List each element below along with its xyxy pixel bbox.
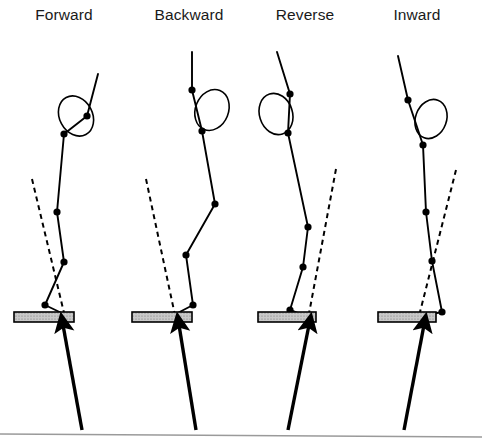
force-arrow-inward xyxy=(404,325,424,430)
joint-shoulder-inward xyxy=(419,141,426,148)
body-segments-inward xyxy=(398,56,442,318)
joint-hand-reverse xyxy=(286,90,293,97)
joint-hand-inward xyxy=(404,96,411,103)
panel-title-backward: Backward xyxy=(155,6,224,23)
head-ellipse-inward xyxy=(410,95,453,143)
panel-forward: Forward xyxy=(14,6,100,430)
panel-reverse: Reverse xyxy=(254,6,336,430)
body-segments-forward xyxy=(45,74,98,318)
panel-title-inward: Inward xyxy=(393,6,440,23)
landing-posture-diagram: ForwardBackwardReverseInward xyxy=(0,0,482,444)
joint-hip-backward xyxy=(211,200,218,207)
force-plate-reverse xyxy=(258,312,316,322)
joint-knee-inward xyxy=(428,257,435,264)
joint-hand-backward xyxy=(188,86,195,93)
joint-shoulder-reverse xyxy=(284,129,291,136)
joint-ankle-inward xyxy=(438,308,445,315)
joint-hip-forward xyxy=(53,208,60,215)
head-ellipse-forward xyxy=(52,90,101,143)
joint-shoulder-backward xyxy=(198,127,205,134)
joint-hand-forward xyxy=(83,112,90,119)
force-arrow-backward xyxy=(179,325,196,430)
joint-knee-forward xyxy=(60,258,67,265)
bottom-baseline xyxy=(0,434,482,437)
force-plate-backward xyxy=(132,312,192,322)
dashed-reference-line-backward xyxy=(146,179,176,320)
diagram-canvas: ForwardBackwardReverseInward xyxy=(0,0,482,444)
panel-title-reverse: Reverse xyxy=(276,6,334,23)
dashed-reference-line-inward xyxy=(418,170,456,320)
head-ellipse-backward xyxy=(189,84,235,135)
panel-backward: Backward xyxy=(132,6,235,430)
joint-ankle-forward xyxy=(41,301,48,308)
joint-knee-reverse xyxy=(299,263,306,270)
joint-shoulder-forward xyxy=(60,130,67,137)
force-arrow-forward xyxy=(63,325,82,430)
joint-hip-inward xyxy=(422,208,429,215)
body-segments-reverse xyxy=(277,52,313,319)
force-plate-forward xyxy=(14,312,74,322)
panel-title-forward: Forward xyxy=(35,6,93,23)
joint-hip-reverse xyxy=(304,223,311,230)
joint-ankle-backward xyxy=(189,301,196,308)
dashed-reference-line-reverse xyxy=(308,169,336,319)
force-plate-inward xyxy=(378,312,436,322)
force-arrow-reverse xyxy=(288,325,309,430)
joint-knee-backward xyxy=(182,251,189,258)
panel-inward: Inward xyxy=(378,6,456,430)
